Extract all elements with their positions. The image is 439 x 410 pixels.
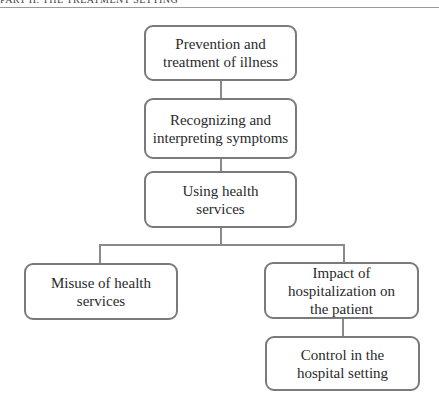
connector-n5-n6 [342,318,344,336]
node-label: Recognizing and interpreting symptoms [152,111,289,147]
node-misuse-health-services: Misuse of health services [24,263,178,320]
connector-n2-n3 [220,158,222,171]
connector-branch-n5 [343,244,345,263]
node-label: Impact of hospitalization on the patient [282,264,402,318]
connector-branch-n4 [99,244,101,264]
connector-n3-branch [220,227,222,245]
node-label: Control in the hospital setting [293,346,393,382]
node-control-hospital-setting: Control in the hospital setting [265,336,420,391]
node-impact-hospitalization: Impact of hospitalization on the patient [264,262,419,319]
node-prevention-treatment: Prevention and treatment of illness [144,25,297,81]
node-label: Using health services [171,182,271,218]
header-rule [0,7,439,8]
node-using-health-services: Using health services [144,171,297,228]
node-label: Misuse of health services [46,274,156,310]
connector-branch-horizontal [99,244,344,246]
node-label: Prevention and treatment of illness [163,35,278,71]
node-recognizing-symptoms: Recognizing and interpreting symptoms [144,98,297,159]
connector-n1-n2 [220,80,222,99]
